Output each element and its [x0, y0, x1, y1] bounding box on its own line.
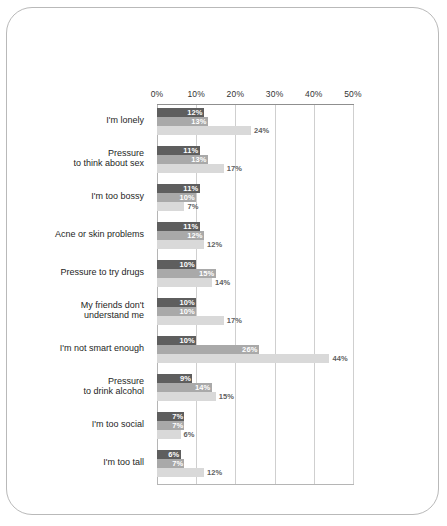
bar-value-label: 10%	[179, 307, 194, 316]
x-axis-tick-label: 40%	[294, 89, 334, 99]
x-axis-tick-label: 0%	[137, 89, 177, 99]
bar-value-label: 26%	[242, 345, 257, 354]
bar-value-label: 11%	[183, 146, 198, 155]
bar-value-label: 7%	[187, 202, 198, 211]
category-axis-label: I'm lonely	[0, 115, 144, 126]
x-axis-tick-label: 30%	[255, 89, 295, 99]
bar-value-label: 11%	[183, 222, 198, 231]
bar-value-label: 15%	[199, 269, 214, 278]
category-axis-label: Pressureto think about sex	[0, 148, 144, 169]
category-label-line: I'm too bossy	[0, 191, 144, 202]
bar-value-label: 12%	[207, 468, 222, 477]
bar-value-label: 7%	[172, 459, 183, 468]
bar-series-3	[157, 354, 329, 363]
bar-value-label: 7%	[172, 412, 183, 421]
category-axis-label: Acne or skin problems	[0, 229, 144, 240]
bar-value-label: 10%	[179, 336, 194, 345]
bar-value-label: 6%	[168, 450, 179, 459]
bar-value-label: 14%	[195, 383, 210, 392]
bar-series-3	[157, 316, 224, 325]
category-axis-label: Pressureto drink alcohol	[0, 376, 144, 397]
bar-value-label: 24%	[254, 126, 269, 135]
bar-value-label: 17%	[227, 316, 242, 325]
bar-series-3	[157, 430, 181, 439]
category-axis-label: I'm too tall	[0, 457, 144, 468]
x-axis-tick-label: 10%	[176, 89, 216, 99]
category-axis-label: I'm not smart enough	[0, 343, 144, 354]
bar-value-label: 7%	[172, 421, 183, 430]
category-label-line: Pressure	[0, 148, 144, 159]
bar-value-label: 10%	[179, 193, 194, 202]
bar-value-label: 12%	[187, 231, 202, 240]
bar-series-3	[157, 468, 204, 477]
category-label-line: to drink alcohol	[0, 386, 144, 397]
category-label-line: Pressure	[0, 376, 144, 387]
bar-series-3	[157, 164, 224, 173]
category-label-line: My friends don't	[0, 300, 144, 311]
bar-series-3	[157, 126, 251, 135]
bar-value-label: 44%	[332, 354, 347, 363]
bar-series-3	[157, 392, 216, 401]
bar-value-label: 12%	[207, 240, 222, 249]
bar-value-label: 6%	[184, 430, 195, 439]
category-label-line: I'm too tall	[0, 457, 144, 468]
bar-value-label: 17%	[227, 164, 242, 173]
bar-value-label: 15%	[219, 392, 234, 401]
bar-value-label: 9%	[180, 374, 191, 383]
x-axis-bottom-line	[157, 484, 354, 485]
bar-series-3	[157, 278, 212, 287]
bar-series-3	[157, 240, 204, 249]
category-label-line: I'm lonely	[0, 115, 144, 126]
category-axis-label: I'm too social	[0, 419, 144, 430]
bar-value-label: 14%	[215, 278, 230, 287]
x-axis-tick-label: 20%	[215, 89, 255, 99]
bar-value-label: 10%	[179, 260, 194, 269]
category-axis-label: My friends don'tunderstand me	[0, 300, 144, 321]
category-label-line: to think about sex	[0, 158, 144, 169]
category-label-line: I'm too social	[0, 419, 144, 430]
category-label-line: Pressure to try drugs	[0, 267, 144, 278]
x-axis-tick-label: 50%	[333, 89, 373, 99]
bar-value-label: 13%	[191, 117, 206, 126]
bar-value-label: 12%	[187, 108, 202, 117]
bar-series-3	[157, 202, 184, 211]
chart-page: 0%10%20%30%40%50%I'm lonely12%13%24%Pres…	[0, 0, 447, 526]
bar-value-label: 10%	[179, 298, 194, 307]
bar-value-label: 11%	[183, 184, 198, 193]
category-label-line: I'm not smart enough	[0, 343, 144, 354]
category-label-line: Acne or skin problems	[0, 229, 144, 240]
category-axis-label: I'm too bossy	[0, 191, 144, 202]
grouped-bar-chart: 0%10%20%30%40%50%I'm lonely12%13%24%Pres…	[0, 0, 447, 526]
category-axis-label: Pressure to try drugs	[0, 267, 144, 278]
bar-value-label: 13%	[191, 155, 206, 164]
category-label-line: understand me	[0, 310, 144, 321]
